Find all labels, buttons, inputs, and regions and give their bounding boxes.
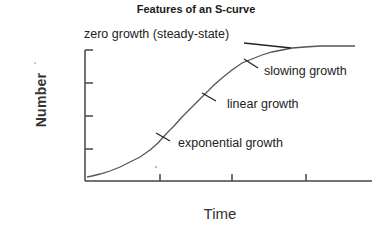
linear-marker xyxy=(202,93,216,101)
exponential-growth-label: exponential growth xyxy=(178,136,283,150)
zero-growth-label: zero growth (steady-state) xyxy=(84,27,229,41)
exponential-marker xyxy=(156,133,170,141)
x-axis-label: Time xyxy=(0,205,392,222)
zero-growth-leader xyxy=(244,43,291,48)
linear-growth-label: linear growth xyxy=(227,97,299,111)
slowing-growth-label: slowing growth xyxy=(264,64,347,78)
slowing-marker xyxy=(244,59,258,68)
